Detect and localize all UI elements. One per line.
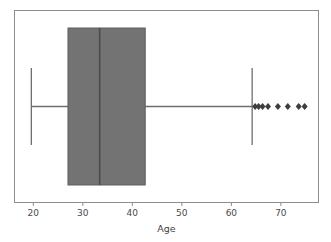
x-tick-label: 60 (226, 208, 238, 218)
box-layer (68, 28, 145, 185)
x-axis-label-group: Age (157, 223, 176, 234)
x-tick-label: 30 (77, 208, 89, 218)
box-plot-canvas: 203040506070 Age (0, 0, 331, 242)
x-tick-label: 20 (28, 208, 40, 218)
x-tick-label: 70 (275, 208, 287, 218)
x-tick-label: 40 (127, 208, 139, 218)
x-axis-title: Age (157, 223, 176, 234)
x-tick-label: 50 (176, 208, 188, 218)
box-plot-figure: 203040506070 Age (0, 0, 331, 242)
box-iqr (68, 28, 145, 185)
